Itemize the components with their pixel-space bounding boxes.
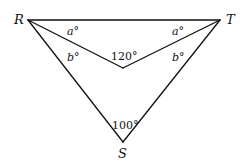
vertex-label-s: S bbox=[118, 146, 127, 161]
angle-label-r-a: a° bbox=[67, 25, 79, 38]
angle-label-t-a: a° bbox=[172, 25, 184, 38]
angle-label-p: 120° bbox=[111, 50, 138, 63]
angle-label-t-b: b° bbox=[172, 51, 185, 64]
angle-label-r-b: b° bbox=[67, 51, 80, 64]
triangle-diagram: R T S a° a° b° b° 120° 100° bbox=[0, 0, 243, 166]
vertex-label-t: T bbox=[226, 12, 236, 27]
segment-rs bbox=[28, 20, 123, 142]
angle-label-s: 100° bbox=[112, 119, 139, 132]
vertex-label-r: R bbox=[13, 12, 24, 27]
